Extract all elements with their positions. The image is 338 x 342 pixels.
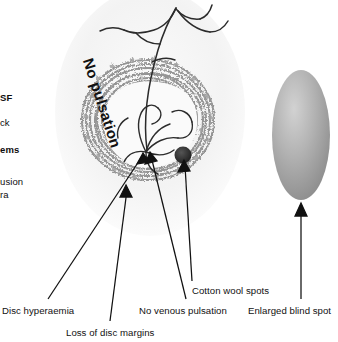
callout-loss-of-disc-margins: Loss of disc margins: [66, 327, 154, 338]
papilloedema-figure: [0, 0, 338, 342]
enlarged-blind-spot-shape: [272, 70, 330, 200]
callout-disc-hyperaemia: Disc hyperaemia: [2, 305, 74, 316]
margin-text-line-4: usion: [0, 176, 23, 187]
margin-text-line-2: ck: [0, 117, 10, 128]
margin-text-line-5: ra: [0, 189, 9, 200]
callout-no-venous-pulsation: No venous pulsation: [139, 305, 227, 316]
margin-text-line-1: SF: [0, 92, 12, 103]
callout-enlarged-blind-spot: Enlarged blind spot: [248, 305, 331, 316]
callout-cotton-wool-spots: Cotton wool spots: [192, 285, 269, 296]
margin-text-line-3: ems: [0, 144, 19, 155]
